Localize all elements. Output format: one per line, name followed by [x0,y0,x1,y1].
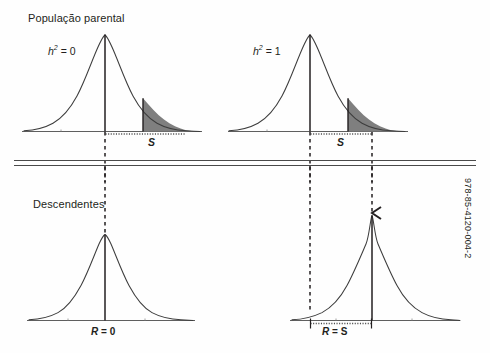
panel-top-right [228,35,408,183]
panel-bottom-right [290,216,460,329]
response-symbol-bottom-left: R [91,326,98,337]
parental-population-title: População parental [28,13,125,24]
heritability-value-top-right: = 1 [266,45,281,57]
selection-tail-shade-top-right [348,98,404,131]
figure-container: População parental h2 = 0 h2 = 1 S S Des… [0,0,490,353]
response-value-bottom-right: = S [332,326,347,337]
heritability-value-top-left: = 0 [61,45,76,57]
isbn-vertical-text: 978-85-4120-004-2 [463,178,472,258]
selection-differential-label-top-left: S [148,137,155,148]
heritability-label-top-right: h2 = 1 [253,44,281,56]
normal-curve-bottom-right [292,216,460,321]
response-label-bottom-right: R = S [322,327,347,337]
heritability-exponent-top-left: 2 [54,44,58,51]
panel-divider [14,161,476,166]
response-value-bottom-left: = 0 [101,326,115,337]
offspring-title: Descendentes [33,199,105,210]
heritability-label-top-left: h2 = 0 [48,44,76,56]
response-label-bottom-left: R = 0 [91,327,115,337]
selection-tail-shade-top-left [143,98,199,131]
panel-bottom-left [27,235,195,321]
heritability-exponent-top-right: 2 [259,44,263,51]
droplink-continuations [105,166,372,312]
selection-differential-label-top-right: S [337,137,344,148]
normal-curve-bottom-left [29,235,193,321]
response-symbol-bottom-right: R [322,326,329,337]
panel-top-left [22,35,202,183]
